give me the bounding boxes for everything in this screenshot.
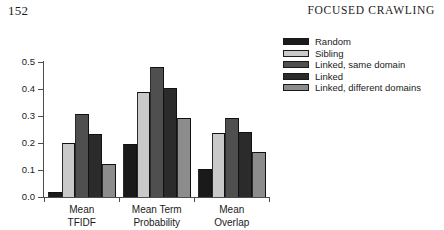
legend-item: Linked xyxy=(283,71,443,82)
bar xyxy=(252,152,266,197)
legend-item: Linked, same domain xyxy=(283,59,443,70)
legend-item: Linked, different domains xyxy=(283,82,443,93)
bar xyxy=(177,118,191,197)
page-header: 152 FOCUSED CRAWLING xyxy=(0,0,444,24)
bar xyxy=(137,92,151,197)
legend-item: Random xyxy=(283,36,443,47)
bar xyxy=(212,133,226,197)
legend-label: Linked xyxy=(315,71,343,82)
page-number: 152 xyxy=(8,3,28,19)
running-head-title: FOCUSED CRAWLING xyxy=(307,4,435,16)
legend-swatch xyxy=(283,84,309,91)
legend-swatch xyxy=(283,73,309,80)
bar-series-container xyxy=(0,24,280,229)
bar xyxy=(198,169,212,197)
category-label-line: Overlap xyxy=(184,217,280,230)
bar xyxy=(48,192,62,197)
legend-swatch xyxy=(283,38,309,45)
legend-label: Random xyxy=(315,36,351,47)
chart-legend: RandomSiblingLinked, same domainLinkedLi… xyxy=(283,36,443,94)
legend-label: Sibling xyxy=(315,48,344,59)
bar-chart-figure: 0.00.10.20.30.40.5 MeanTFIDFMean TermPro… xyxy=(0,24,444,229)
bar xyxy=(62,143,76,197)
bar xyxy=(89,134,103,197)
legend-label: Linked, same domain xyxy=(315,59,405,70)
bar xyxy=(225,118,239,197)
bar xyxy=(102,164,116,197)
bar xyxy=(239,132,253,197)
legend-label: Linked, different domains xyxy=(315,82,421,93)
plot-area: 0.00.10.20.30.40.5 MeanTFIDFMean TermPro… xyxy=(0,24,280,229)
bar xyxy=(75,114,89,197)
bar xyxy=(164,88,178,197)
x-axis-category-label: MeanOverlap xyxy=(184,204,280,229)
bar xyxy=(150,67,164,197)
bar xyxy=(123,144,137,197)
legend-swatch xyxy=(283,50,309,57)
legend-item: Sibling xyxy=(283,48,443,59)
legend-swatch xyxy=(283,61,309,68)
category-label-line: Mean xyxy=(184,204,280,217)
